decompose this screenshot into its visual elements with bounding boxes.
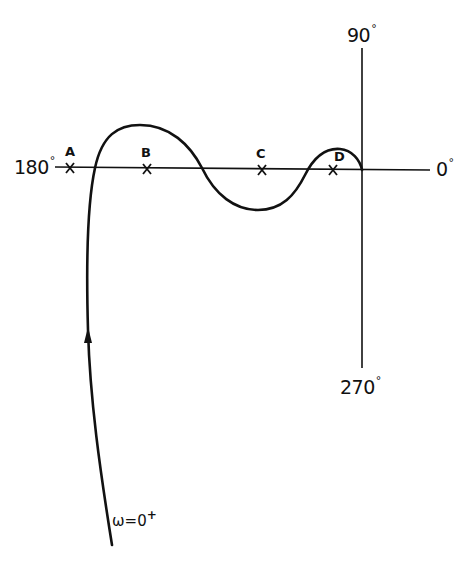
point-label-d: D bbox=[334, 150, 345, 163]
point-marker-a bbox=[66, 163, 74, 173]
point-marker-c bbox=[258, 165, 266, 175]
axis-label-180-value: 180 bbox=[14, 156, 49, 178]
point-label-a: A bbox=[65, 145, 75, 158]
nyquist-curve bbox=[87, 125, 362, 545]
degree-symbol: ° bbox=[449, 156, 454, 169]
axis-label-270: 270° bbox=[340, 378, 381, 397]
degree-symbol: ° bbox=[371, 22, 376, 35]
axis-label-90: 90° bbox=[347, 26, 376, 45]
axis-label-180: 180° bbox=[14, 158, 55, 177]
point-label-b: B bbox=[141, 146, 151, 159]
point-marker-b bbox=[143, 164, 151, 174]
axis-label-270-value: 270 bbox=[340, 376, 375, 398]
nyquist-diagram: 180° 0° 90° 270° A B C D ω=0+ bbox=[0, 0, 472, 565]
horizontal-axis bbox=[55, 167, 430, 170]
axis-label-0: 0° bbox=[436, 160, 454, 179]
axis-label-0-value: 0 bbox=[436, 158, 448, 180]
degree-symbol: ° bbox=[376, 374, 381, 387]
point-label-c: C bbox=[256, 147, 266, 160]
direction-arrow-icon bbox=[84, 327, 92, 343]
omega-start-label-sup: + bbox=[147, 508, 157, 522]
omega-start-label-main: ω=0 bbox=[112, 512, 147, 530]
omega-start-label: ω=0+ bbox=[112, 514, 157, 529]
diagram-canvas bbox=[0, 0, 472, 565]
axis-label-90-value: 90 bbox=[347, 24, 370, 46]
degree-symbol: ° bbox=[50, 154, 55, 167]
